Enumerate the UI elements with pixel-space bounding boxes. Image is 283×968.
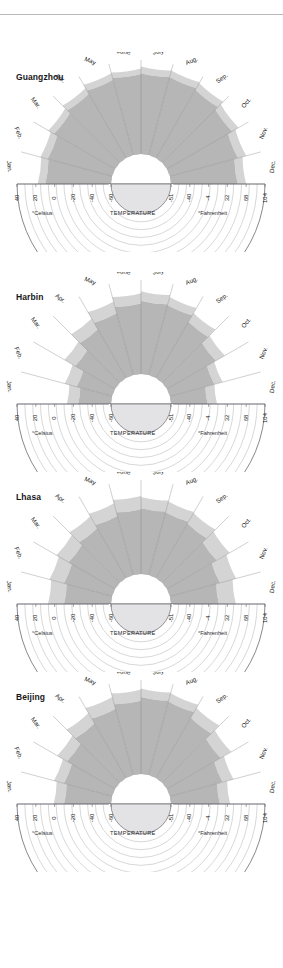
svg-text:June: June (117, 472, 132, 476)
svg-text:-4: -4 (205, 415, 211, 421)
chart-panel-lhasa: Lhasa Jan.Feb.Mar.Apr.MayJuneJulyAug.Sep… (0, 472, 283, 672)
svg-text:40: 40 (14, 614, 20, 621)
svg-text:68: 68 (243, 194, 249, 201)
svg-text:Sep.: Sep. (214, 291, 229, 304)
svg-text:-40: -40 (186, 193, 192, 202)
fahrenheit-axis-caption: °Fahrenheit (198, 830, 227, 836)
temperature-axis-caption: TEMPERATURE (110, 830, 156, 836)
svg-text:-4: -4 (205, 815, 211, 821)
top-divider (0, 14, 283, 15)
svg-text:Jan.: Jan. (6, 780, 15, 793)
temperature-axis-caption: TEMPERATURE (110, 210, 156, 216)
svg-text:-40: -40 (89, 413, 95, 422)
svg-text:Apr.: Apr. (54, 72, 67, 84)
svg-text:Nov.: Nov. (258, 546, 269, 560)
svg-text:104: 104 (262, 412, 268, 423)
svg-text:-20: -20 (70, 413, 76, 422)
svg-text:32: 32 (224, 814, 230, 821)
svg-text:-4: -4 (205, 195, 211, 201)
temperature-dial: Jan.Feb.Mar.Apr.MayJuneJulyAug.Sep.Oct.N… (0, 52, 283, 252)
svg-text:Jan.: Jan. (6, 580, 15, 593)
svg-text:-60: -60 (108, 813, 114, 822)
svg-text:Aug.: Aug. (184, 275, 199, 286)
svg-text:July: July (152, 472, 165, 475)
svg-text:Aug.: Aug. (184, 675, 199, 686)
svg-text:May: May (84, 55, 98, 66)
svg-text:32: 32 (224, 414, 230, 421)
svg-text:Dec.: Dec. (268, 379, 277, 393)
svg-text:20: 20 (32, 414, 38, 421)
svg-text:Feb.: Feb. (13, 546, 24, 560)
svg-text:-20: -20 (70, 193, 76, 202)
svg-text:0: 0 (51, 416, 57, 420)
svg-text:Feb.: Feb. (13, 126, 24, 140)
svg-text:July: July (152, 672, 165, 675)
svg-text:-20: -20 (70, 813, 76, 822)
svg-text:20: 20 (32, 814, 38, 821)
svg-text:-4: -4 (205, 615, 211, 621)
svg-text:40: 40 (14, 414, 20, 421)
svg-text:0: 0 (51, 196, 57, 200)
svg-text:July: July (152, 272, 165, 275)
temperature-dial: Jan.Feb.Mar.Apr.MayJuneJulyAug.Sep.Oct.N… (0, 672, 283, 872)
svg-text:Apr.: Apr. (54, 492, 67, 504)
svg-text:-40: -40 (89, 813, 95, 822)
fahrenheit-axis-caption: °Fahrenheit (198, 210, 227, 216)
svg-text:Nov.: Nov. (258, 346, 269, 360)
svg-text:104: 104 (262, 192, 268, 203)
svg-text:0: 0 (51, 616, 57, 620)
svg-text:-51: -51 (168, 613, 174, 622)
svg-text:68: 68 (243, 414, 249, 421)
svg-text:May: May (84, 275, 98, 286)
svg-text:July: July (152, 52, 165, 55)
svg-text:32: 32 (224, 614, 230, 621)
celsius-axis-caption: °Celsius (32, 210, 53, 216)
svg-text:June: June (117, 672, 132, 676)
chart-panel-harbin: Harbin Jan.Feb.Mar.Apr.MayJuneJulyAug.Se… (0, 272, 283, 472)
svg-text:104: 104 (262, 612, 268, 623)
svg-text:20: 20 (32, 194, 38, 201)
svg-text:-40: -40 (186, 413, 192, 422)
svg-text:Jan.: Jan. (6, 160, 15, 173)
svg-text:Mar.: Mar. (30, 716, 43, 730)
svg-text:Oct.: Oct. (240, 716, 253, 729)
svg-text:Oct.: Oct. (240, 96, 253, 109)
svg-text:Apr.: Apr. (54, 692, 67, 704)
svg-text:Dec.: Dec. (268, 579, 277, 593)
svg-text:20: 20 (32, 614, 38, 621)
chart-panel-beijing: Beijing Jan.Feb.Mar.Apr.MayJuneJulyAug.S… (0, 672, 283, 872)
svg-text:-40: -40 (89, 613, 95, 622)
svg-text:Nov.: Nov. (258, 746, 269, 760)
svg-text:Oct.: Oct. (240, 316, 253, 329)
svg-text:June: June (117, 52, 132, 56)
svg-text:Sep.: Sep. (214, 71, 229, 84)
svg-text:0: 0 (51, 816, 57, 820)
svg-text:-60: -60 (108, 613, 114, 622)
temperature-dial: Jan.Feb.Mar.Apr.MayJuneJulyAug.Sep.Oct.N… (0, 472, 283, 672)
celsius-axis-caption: °Celsius (32, 430, 53, 436)
svg-text:40: 40 (14, 194, 20, 201)
celsius-axis-caption: °Celsius (32, 830, 53, 836)
svg-text:Mar.: Mar. (30, 516, 43, 530)
svg-text:Sep.: Sep. (214, 491, 229, 504)
svg-text:-40: -40 (186, 613, 192, 622)
svg-text:Mar.: Mar. (30, 316, 43, 330)
svg-text:-60: -60 (108, 413, 114, 422)
fahrenheit-axis-caption: °Fahrenheit (198, 430, 227, 436)
svg-text:May: May (84, 475, 98, 486)
temperature-dial: Jan.Feb.Mar.Apr.MayJuneJulyAug.Sep.Oct.N… (0, 272, 283, 472)
svg-text:68: 68 (243, 614, 249, 621)
chart-panel-guangzhou: Guangzhou Jan.Feb.Mar.Apr.MayJuneJulyAug… (0, 52, 283, 252)
svg-text:Dec.: Dec. (268, 779, 277, 793)
temperature-axis-caption: TEMPERATURE (110, 430, 156, 436)
svg-text:Feb.: Feb. (13, 346, 24, 360)
svg-text:Apr.: Apr. (54, 292, 67, 304)
fahrenheit-axis-caption: °Fahrenheit (198, 630, 227, 636)
svg-text:May: May (84, 675, 98, 686)
svg-text:-51: -51 (168, 413, 174, 422)
svg-text:Aug.: Aug. (184, 55, 199, 66)
svg-text:-51: -51 (168, 813, 174, 822)
svg-text:-20: -20 (70, 613, 76, 622)
svg-text:Jan.: Jan. (6, 380, 15, 393)
svg-text:40: 40 (14, 814, 20, 821)
